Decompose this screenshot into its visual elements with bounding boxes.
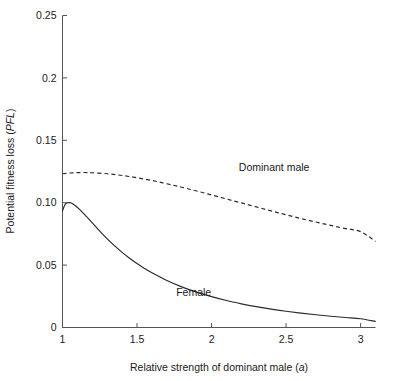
figure-container: 00.050.100.150.20.25 11.522.53 Dominant … [0, 0, 393, 381]
y-tick-label: 0.05 [36, 259, 57, 271]
x-tick-label: 1.5 [130, 333, 145, 345]
y-axis-title-plain: Potential fitness loss ( [4, 131, 16, 234]
x-tick-label: 1 [60, 333, 66, 345]
y-tick-label: 0.2 [42, 72, 57, 84]
y-axis-tick-labels: 00.050.100.150.20.25 [36, 9, 57, 333]
x-tick-label: 2.5 [279, 333, 294, 345]
series-label-dominant-male: Dominant male [239, 161, 310, 173]
y-tick-label: 0.15 [36, 134, 57, 146]
y-axis-tick-marks [63, 16, 68, 328]
y-tick-label: 0 [51, 321, 57, 333]
y-tick-label: 0.25 [36, 9, 57, 21]
y-axis-title-italic: PFL [4, 112, 16, 131]
x-tick-label: 2 [209, 333, 215, 345]
series-label-female: Female [176, 286, 211, 298]
y-axis-title-close: ) [4, 109, 16, 113]
y-axis-title: Potential fitness loss (PFL) [4, 109, 16, 234]
y-tick-label: 0.10 [36, 196, 57, 208]
series-line-dominant-male [63, 172, 376, 241]
chart-canvas: 00.050.100.150.20.25 11.522.53 Dominant … [0, 0, 393, 381]
x-axis-title-close: ) [305, 361, 309, 373]
x-axis-tick-labels: 11.522.53 [60, 333, 364, 345]
series-line-female [63, 203, 376, 322]
x-axis-title-plain: Relative strength of dominant male ( [130, 361, 299, 373]
x-axis-tick-marks [63, 323, 361, 328]
x-axis-title: Relative strength of dominant male (a) [130, 361, 308, 373]
x-tick-label: 3 [358, 333, 364, 345]
